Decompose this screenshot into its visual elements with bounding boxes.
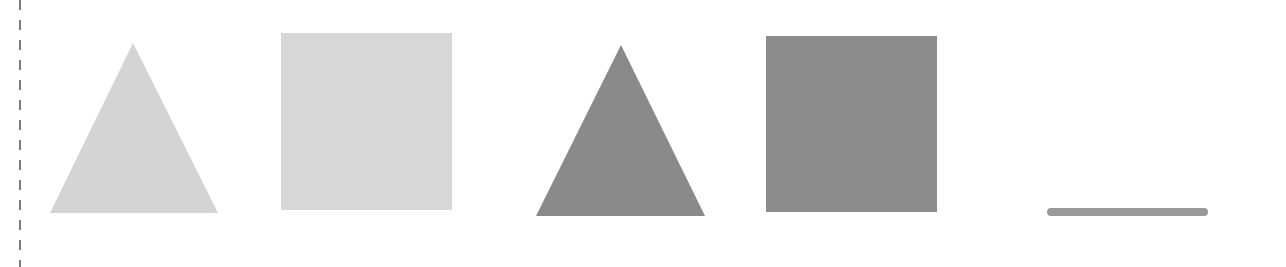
light-square: [281, 33, 452, 210]
dark-square: [766, 36, 937, 212]
shapes-figure: [0, 0, 1286, 267]
